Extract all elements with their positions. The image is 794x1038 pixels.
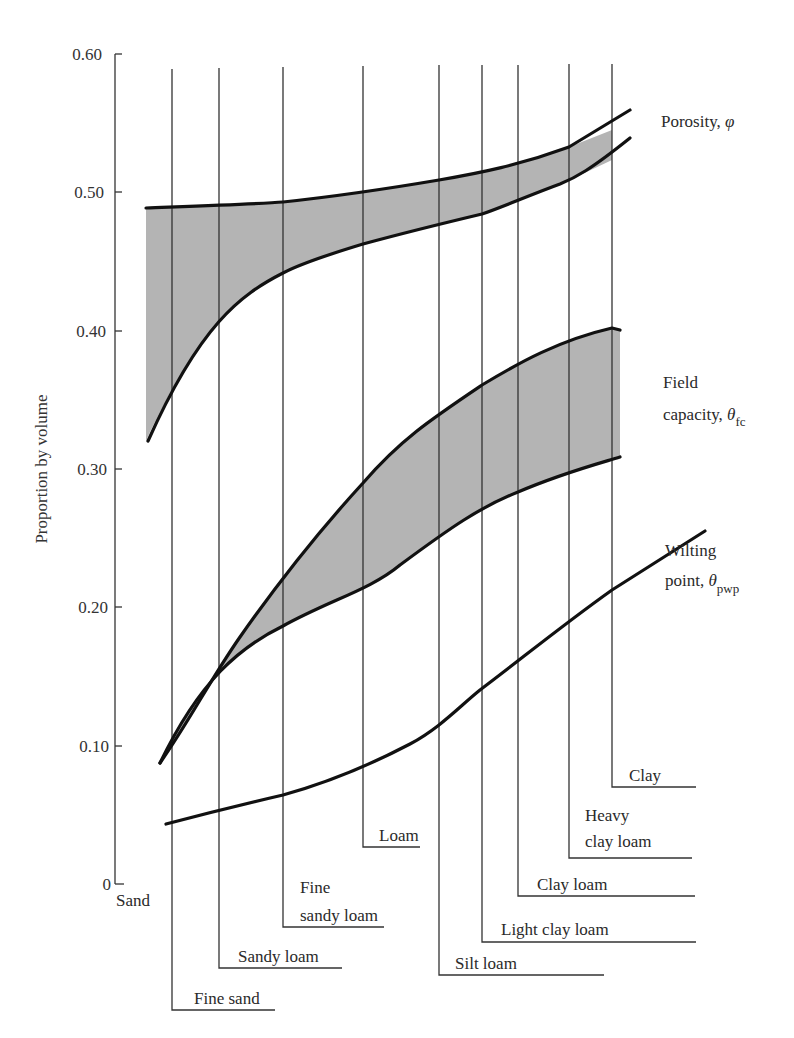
field-capacity-band xyxy=(160,328,620,763)
soil-label-heavy-clay-loam-1: Heavy xyxy=(585,806,630,825)
soil-label-fine-sand: Fine sand xyxy=(194,989,260,1008)
soil-label-sandy-loam: Sandy loam xyxy=(238,947,319,966)
wilting-point-curve xyxy=(166,531,705,824)
soil-label-sand: Sand xyxy=(116,891,151,910)
tick-0.50: 0.50 xyxy=(74,183,104,202)
porosity-label: Porosity, φ xyxy=(661,112,734,131)
tick-0.30: 0.30 xyxy=(77,460,107,479)
tick-0.60: 0.60 xyxy=(72,45,102,64)
tick-0.20: 0.20 xyxy=(78,598,108,617)
y-axis xyxy=(115,54,124,884)
y-tick-labels: 0.60 0.50 0.40 0.30 0.20 0.10 0 xyxy=(72,45,111,894)
wilting-point-label: Wilting xyxy=(665,541,717,560)
soil-label-fine-sandy-loam-1: Fine xyxy=(300,878,330,897)
soil-label-fine-sandy-loam-2: sandy loam xyxy=(300,906,378,925)
y-axis-title: Proportion by volume xyxy=(32,394,51,543)
soil-label-loam: Loam xyxy=(379,826,419,845)
soil-label-clay-loam: Clay loam xyxy=(537,875,607,894)
soil-label-heavy-clay-loam-2: clay loam xyxy=(585,832,652,851)
tick-0.40: 0.40 xyxy=(76,322,106,341)
soil-label-light-clay-loam: Light clay loam xyxy=(501,920,609,939)
soil-label-silt-loam: Silt loam xyxy=(455,954,517,973)
soil-moisture-chart: 0.60 0.50 0.40 0.30 0.20 0.10 0 Proporti… xyxy=(0,0,794,1038)
field-capacity-label: Field xyxy=(663,373,698,392)
field-capacity-label-2: capacity, θfc xyxy=(663,405,746,429)
tick-0.10: 0.10 xyxy=(79,737,109,756)
soil-label-clay: Clay xyxy=(629,766,662,785)
tick-0: 0 xyxy=(103,875,112,894)
wilting-point-label-2: point, θpwp xyxy=(665,571,739,596)
